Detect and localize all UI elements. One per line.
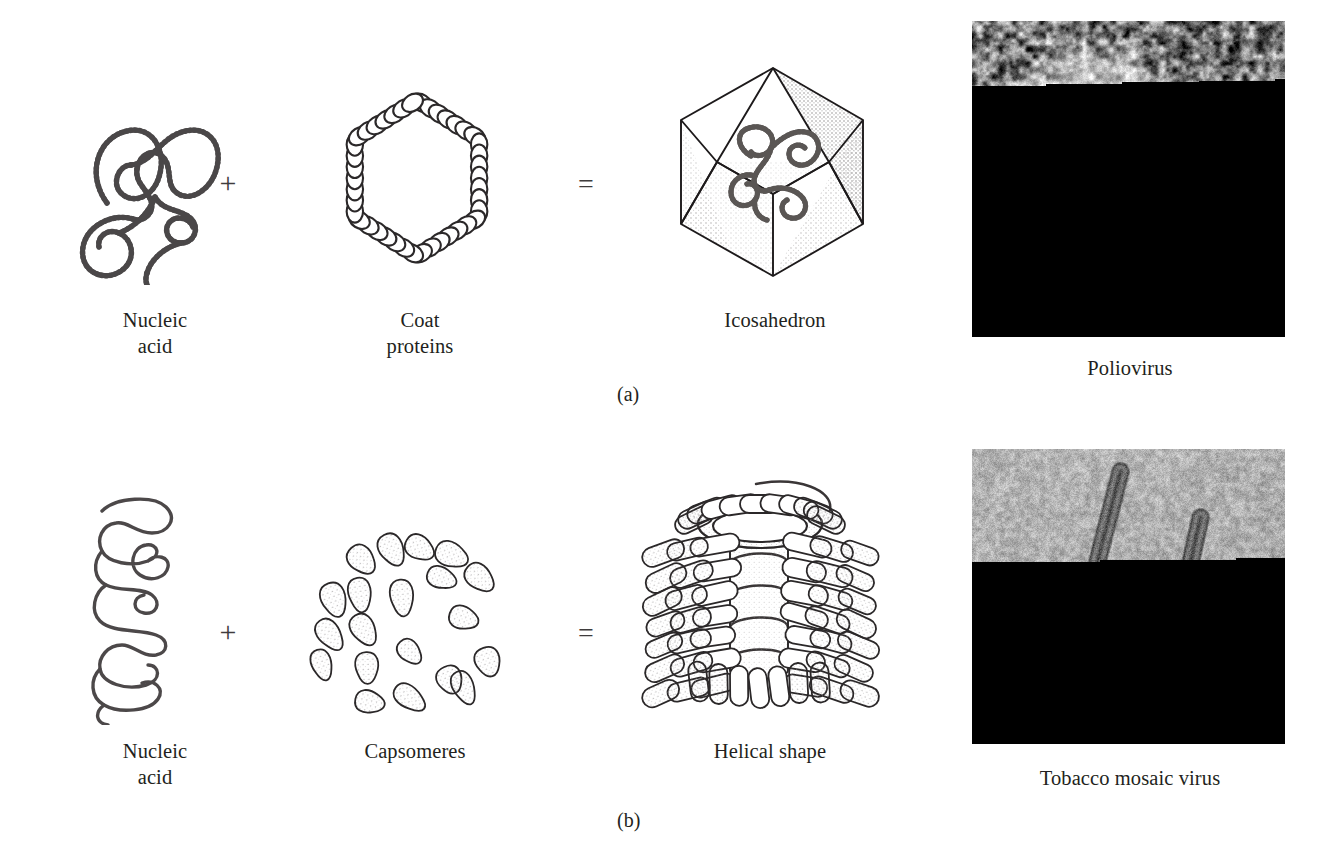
- caption-tobacco-mosaic-virus: Tobacco mosaic virus: [960, 765, 1300, 791]
- plus-operator-a: +: [214, 168, 242, 198]
- equals-operator-a: =: [572, 170, 600, 198]
- icosahedron-art: [655, 52, 895, 292]
- caption-helical-shape: Helical shape: [645, 738, 895, 764]
- panel-b-helical-virus: + =: [0, 420, 1336, 844]
- panel-letter-b: (b): [617, 809, 640, 832]
- panel-a-icosahedral-virus: + =: [0, 0, 1336, 420]
- equals-operator-b: =: [572, 619, 600, 647]
- tmv-micrograph: [972, 449, 1285, 744]
- caption-icosahedron: Icosahedron: [660, 307, 890, 333]
- plus-operator-b: +: [214, 617, 242, 647]
- poliovirus-micrograph: [972, 21, 1285, 337]
- capsomeres-art: [292, 490, 522, 720]
- coat-proteins-art: [325, 78, 510, 278]
- panel-letter-a: (a): [617, 383, 639, 406]
- caption-nucleic-acid-b: Nucleic acid: [40, 738, 270, 790]
- figure-root: + =: [0, 0, 1336, 844]
- caption-poliovirus: Poliovirus: [1000, 355, 1260, 381]
- caption-nucleic-acid-a: Nucleic acid: [40, 307, 270, 359]
- nucleic-acid-helical-art: [70, 475, 280, 725]
- caption-capsomeres: Capsomeres: [300, 738, 530, 764]
- helical-capsid-art: [638, 456, 888, 726]
- caption-coat-proteins: Coat proteins: [310, 307, 530, 359]
